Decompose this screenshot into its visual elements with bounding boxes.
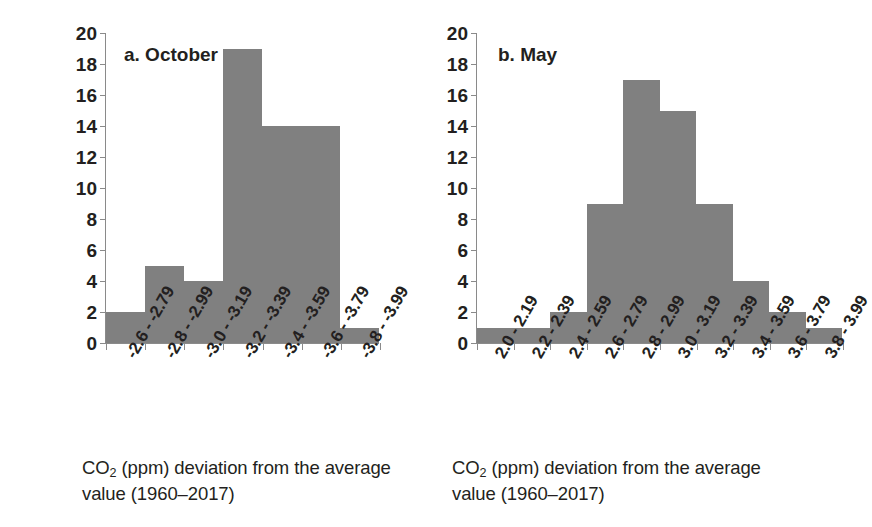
y-tick-label: 16 — [434, 86, 468, 105]
caption-subscript: 2 — [110, 466, 117, 480]
y-tick-label: 18 — [434, 55, 468, 74]
y-tick-mark — [100, 157, 106, 158]
y-tick-mark — [471, 33, 477, 34]
caption-co-text: CO — [452, 457, 480, 478]
y-tick-mark — [471, 312, 477, 313]
y-tick-label: 4 — [434, 272, 468, 291]
y-tick-labels-may: 20181614121086420 — [434, 33, 468, 343]
y-tick-label: 4 — [63, 272, 97, 291]
panel-label-october: a. October — [124, 44, 218, 66]
y-tick-mark — [471, 64, 477, 65]
y-tick-mark — [100, 250, 106, 251]
y-tick-label: 12 — [63, 148, 97, 167]
x-tick-labels-october: -2.6 - -2.79-2.8 - -2.99-3.0 - -3.19-3.2… — [105, 352, 378, 448]
y-tick-label: 8 — [434, 210, 468, 229]
caption-co-text: CO — [82, 457, 110, 478]
y-tick-label: 0 — [63, 334, 97, 353]
y-tick-mark — [100, 281, 106, 282]
y-tick-label: 10 — [63, 179, 97, 198]
caption-rest: (ppm) deviation from the average — [486, 457, 760, 478]
y-tick-mark — [471, 250, 477, 251]
y-tick-label: 16 — [63, 86, 97, 105]
x-tick-labels-may: 2.0 - 2.192.2 - 2.392.4 - 2.592.6 - 2.79… — [476, 352, 841, 448]
y-tick-label: 0 — [434, 334, 468, 353]
y-tick-label: 2 — [434, 303, 468, 322]
y-tick-label: 8 — [63, 210, 97, 229]
y-tick-label: 10 — [434, 179, 468, 198]
y-tick-label: 2 — [63, 303, 97, 322]
panel-label-may: b. May — [498, 44, 557, 66]
y-tick-label: 20 — [434, 24, 468, 43]
y-tick-mark — [100, 64, 106, 65]
y-axis-title-october: # dapapoints per bin — [8, 0, 34, 56]
x-tick-mark — [106, 343, 107, 350]
y-tick-mark — [471, 157, 477, 158]
y-tick-label: 6 — [63, 241, 97, 260]
x-axis-caption-may: CO2 (ppm) deviation from the average val… — [452, 455, 792, 506]
x-tick-mark — [477, 343, 478, 350]
y-tick-label: 14 — [63, 117, 97, 136]
caption-line2: value (1960–2017) — [82, 483, 235, 504]
caption-line2: value (1960–2017) — [452, 483, 605, 504]
y-tick-mark — [471, 281, 477, 282]
y-tick-mark — [100, 219, 106, 220]
y-tick-mark — [100, 126, 106, 127]
y-tick-label: 14 — [434, 117, 468, 136]
y-tick-mark — [471, 95, 477, 96]
y-tick-label: 18 — [63, 55, 97, 74]
x-axis-caption-october: CO2 (ppm) deviation from the average val… — [82, 455, 422, 506]
y-tick-mark — [471, 126, 477, 127]
panel-may: 20181614121086420 b. May 2.0 - 2.192.2 -… — [430, 0, 840, 527]
y-tick-mark — [471, 188, 477, 189]
y-tick-mark — [471, 219, 477, 220]
y-tick-mark — [100, 312, 106, 313]
y-tick-mark — [100, 188, 106, 189]
y-tick-label: 20 — [63, 24, 97, 43]
y-tick-labels-october: 20181614121086420 — [63, 33, 97, 343]
panel-october: # dapapoints per bin 20181614121086420 a… — [0, 0, 430, 527]
y-tick-label: 6 — [434, 241, 468, 260]
y-tick-mark — [100, 95, 106, 96]
y-tick-mark — [100, 33, 106, 34]
caption-rest: (ppm) deviation from the average — [116, 457, 390, 478]
caption-subscript: 2 — [480, 466, 487, 480]
y-tick-label: 12 — [434, 148, 468, 167]
